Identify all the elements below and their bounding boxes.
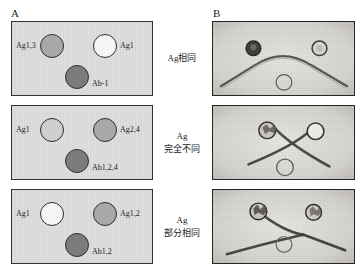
antibody-well-label: Ab1,2,4 <box>92 164 118 172</box>
photo-non-identity <box>212 105 355 180</box>
antigen-well-left[interactable] <box>40 118 64 142</box>
antibody-well[interactable] <box>65 149 89 173</box>
caption-non-identity: Ag 完全不同 <box>155 105 209 180</box>
antibody-well-label: Ab1,2 <box>92 248 112 256</box>
photo-identity <box>212 21 355 96</box>
antigen-well-right[interactable] <box>93 118 117 142</box>
caption-partial-identity: Ag 部分相同 <box>155 189 209 264</box>
schematic-gel-partial-identity: Ag1 Ag1,2 Ab1,2 <box>11 189 153 264</box>
gel-photo-spur <box>213 190 354 263</box>
photo-partial-identity <box>212 189 355 264</box>
caption-line: 完全不同 <box>164 143 200 155</box>
antigen-well-right[interactable] <box>93 34 117 58</box>
schematic-gel-identity: Ag1,3 Ag1 Ab-1 <box>11 21 153 96</box>
antigen-well-left-label: Ag1 <box>16 126 30 134</box>
gel-photo-crossed-lines <box>213 106 354 179</box>
schematic-gel-non-identity: Ag1 Ag2,4 Ab1,2,4 <box>11 105 153 180</box>
caption-column: Ag相同 Ag 完全不同 Ag 部分相同 <box>155 21 209 273</box>
photograph-column <box>212 21 355 273</box>
immunodiffusion-figure: A B Ag1,3 Ag1 Ab-1 Ag1 Ag2,4 Ab1,2,4 Ag1 <box>0 0 362 280</box>
antigen-well-left[interactable] <box>40 202 64 226</box>
caption-line: 部分相同 <box>164 227 200 239</box>
antibody-well[interactable] <box>65 233 89 257</box>
antigen-well-left[interactable] <box>40 34 64 58</box>
panel-a-letter: A <box>11 7 19 19</box>
antibody-well[interactable] <box>65 65 89 89</box>
caption-line: Ag <box>177 214 188 226</box>
antigen-well-right-label: Ag2,4 <box>120 126 140 134</box>
antigen-well-left-label: Ag1 <box>16 210 30 218</box>
caption-identity: Ag相同 <box>155 21 209 96</box>
schematic-column: Ag1,3 Ag1 Ab-1 Ag1 Ag2,4 Ab1,2,4 Ag1 Ag1… <box>11 21 153 273</box>
antibody-well-label: Ab-1 <box>92 80 108 88</box>
gel-photo-arch-fusion <box>213 22 354 95</box>
panel-b-letter: B <box>213 7 221 19</box>
antigen-well-right-label: Ag1 <box>120 42 134 50</box>
antigen-well-right-label: Ag1,2 <box>120 210 140 218</box>
caption-line: Ag <box>177 130 188 142</box>
caption-line: Ag相同 <box>168 52 197 64</box>
antigen-well-left-label: Ag1,3 <box>16 42 36 50</box>
antigen-well-right[interactable] <box>93 202 117 226</box>
